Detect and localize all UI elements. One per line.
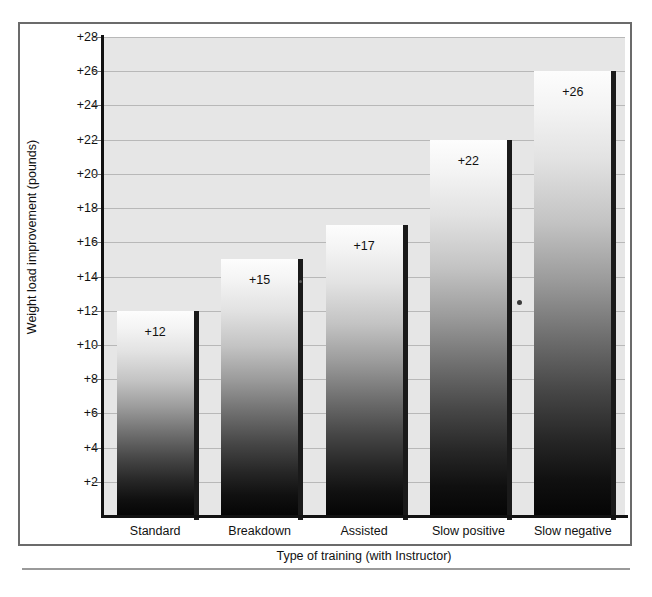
x-axis-title: Type of training (with Instructor) [103, 549, 625, 563]
category-label: Assisted [340, 524, 387, 538]
category-label: Standard [130, 524, 181, 538]
horizontal-rule [22, 568, 630, 570]
category-label: Slow negative [534, 524, 612, 538]
category-label: Breakdown [228, 524, 291, 538]
category-label-group: StandardBreakdownAssistedSlow positiveSl… [0, 0, 652, 597]
category-label: Slow positive [432, 524, 505, 538]
